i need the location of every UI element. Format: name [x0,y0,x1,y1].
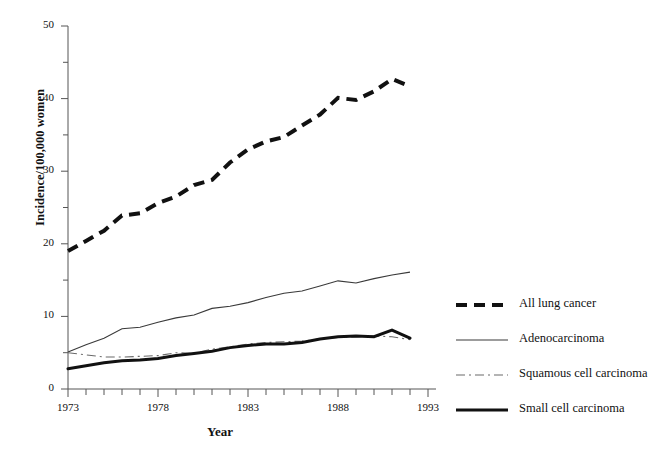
legend-item: Squamous cell carcinoma [455,365,651,387]
legend-key-thin-dashdot [455,367,509,385]
legend-label: All lung cancer [519,295,596,311]
axes [61,26,436,397]
legend-label: Squamous cell carcinoma [519,365,647,381]
legend-key-thick-solid [455,402,509,420]
legend-item: Adenocarcinoma [455,330,651,352]
series-line [68,79,410,251]
legend-key-thin-solid [455,332,509,350]
legend-label: Adenocarcinoma [519,330,604,346]
series-line [68,272,410,352]
legend-item: Small cell carcinoma [455,400,651,422]
chart-figure: Incidence/100,000 women Year 01020304050… [0,0,651,449]
series-line [68,330,410,368]
chart-legend: All lung cancerAdenocarcinomaSquamous ce… [455,295,651,435]
legend-label: Small cell carcinoma [519,400,625,416]
legend-key-thick-dashed [455,297,509,315]
data-lines [68,79,410,369]
legend-item: All lung cancer [455,295,651,317]
